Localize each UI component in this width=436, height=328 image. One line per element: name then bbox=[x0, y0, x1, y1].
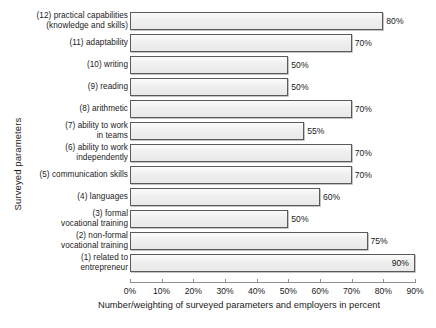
bar-track: 50% bbox=[130, 78, 420, 96]
bar-row: (6) ability to work independently70% bbox=[0, 142, 436, 164]
x-axis-tick bbox=[130, 279, 131, 283]
bar: 50% bbox=[130, 210, 288, 228]
bar-track: 50% bbox=[130, 56, 420, 74]
bar-track: 75% bbox=[130, 232, 420, 250]
bar-value-label: 70% bbox=[355, 104, 372, 114]
bar: 70% bbox=[130, 166, 352, 184]
bar-row: (10) writing50% bbox=[0, 54, 436, 76]
bar: 70% bbox=[130, 144, 352, 162]
x-axis-tick-label: 10% bbox=[153, 286, 170, 296]
category-label: (7) ability to work in teams bbox=[18, 121, 128, 140]
category-label: (11) adaptability bbox=[18, 38, 128, 48]
bar-track: 70% bbox=[130, 166, 420, 184]
bar-track: 80% bbox=[130, 12, 420, 30]
bar-row: (4) languages60% bbox=[0, 186, 436, 208]
x-axis-tick-label: 70% bbox=[343, 286, 360, 296]
bar-track: 55% bbox=[130, 122, 420, 140]
category-label: (8) arithmetic bbox=[18, 104, 128, 114]
x-axis-tick-label: 20% bbox=[185, 286, 202, 296]
x-axis-tick bbox=[352, 279, 353, 283]
x-axis-tick-label: 50% bbox=[280, 286, 297, 296]
bar: 55% bbox=[130, 122, 304, 140]
bar-row: (7) ability to work in teams55% bbox=[0, 120, 436, 142]
bar-row: (1) related to entrepreneur90% bbox=[0, 252, 436, 274]
bar-value-label: 90% bbox=[392, 258, 409, 268]
bar-value-label: 55% bbox=[307, 126, 324, 136]
bar-value-label: 75% bbox=[371, 236, 388, 246]
bar-row: (3) formal vocational training50% bbox=[0, 208, 436, 230]
bar-value-label: 50% bbox=[291, 82, 308, 92]
x-axis-tick-label: 60% bbox=[311, 286, 328, 296]
bar-track: 60% bbox=[130, 188, 420, 206]
bar-value-label: 50% bbox=[291, 214, 308, 224]
x-axis-line bbox=[130, 282, 415, 283]
bar-value-label: 70% bbox=[355, 148, 372, 158]
bar-value-label: 80% bbox=[386, 16, 403, 26]
category-label: (4) languages bbox=[18, 192, 128, 202]
category-label: (6) ability to work independently bbox=[18, 143, 128, 162]
bar-track: 70% bbox=[130, 100, 420, 118]
category-label: (3) formal vocational training bbox=[18, 209, 128, 228]
x-axis-tick-label: 0% bbox=[124, 286, 136, 296]
x-axis-tick bbox=[162, 279, 163, 283]
bar: 80% bbox=[130, 12, 383, 30]
bar-value-label: 60% bbox=[323, 192, 340, 202]
bar-row: (11) adaptability70% bbox=[0, 32, 436, 54]
x-axis-tick bbox=[288, 279, 289, 283]
x-axis-tick bbox=[257, 279, 258, 283]
x-axis-title-text: Number/weighting of surveyed parameters … bbox=[56, 300, 380, 310]
category-label: (1) related to entrepreneur bbox=[18, 253, 128, 272]
bar-row: (12) practical capabilities (knowledge a… bbox=[0, 10, 436, 32]
x-axis-tick-label: 30% bbox=[216, 286, 233, 296]
bar-value-label: 70% bbox=[355, 38, 372, 48]
x-axis-tick-label: 40% bbox=[248, 286, 265, 296]
bar-row: (2) non-formal vocational training75% bbox=[0, 230, 436, 252]
x-axis-tick bbox=[225, 279, 226, 283]
bar: 60% bbox=[130, 188, 320, 206]
category-label: (9) reading bbox=[18, 82, 128, 92]
bar: 70% bbox=[130, 34, 352, 52]
bar-track: 70% bbox=[130, 34, 420, 52]
bar-rows-container: (12) practical capabilities (knowledge a… bbox=[0, 10, 436, 282]
bar-row: (8) arithmetic70% bbox=[0, 98, 436, 120]
bar: 90% bbox=[130, 254, 415, 272]
x-axis-tick bbox=[193, 279, 194, 283]
bar-chart: Surveyed parameters (12) practical capab… bbox=[0, 0, 436, 328]
bar-value-label: 70% bbox=[355, 170, 372, 180]
bar-track: 70% bbox=[130, 144, 420, 162]
category-label: (10) writing bbox=[18, 60, 128, 70]
x-axis-tick bbox=[415, 279, 416, 283]
bar-row: (9) reading50% bbox=[0, 76, 436, 98]
x-axis-tick bbox=[320, 279, 321, 283]
x-axis-tick-label: 80% bbox=[375, 286, 392, 296]
x-axis-tick-label: 90% bbox=[406, 286, 423, 296]
bar-track: 50% bbox=[130, 210, 420, 228]
bar: 75% bbox=[130, 232, 368, 250]
bar: 70% bbox=[130, 100, 352, 118]
x-axis-title: Number/weighting of surveyed parameters … bbox=[0, 300, 436, 310]
bar-track: 90% bbox=[130, 254, 420, 272]
category-label: (12) practical capabilities (knowledge a… bbox=[18, 11, 128, 30]
bar: 50% bbox=[130, 78, 288, 96]
category-label: (2) non-formal vocational training bbox=[18, 231, 128, 250]
category-label: (5) communication skills bbox=[18, 170, 128, 180]
bar-value-label: 50% bbox=[291, 60, 308, 70]
bar: 50% bbox=[130, 56, 288, 74]
x-axis-tick bbox=[383, 279, 384, 283]
bar-row: (5) communication skills70% bbox=[0, 164, 436, 186]
